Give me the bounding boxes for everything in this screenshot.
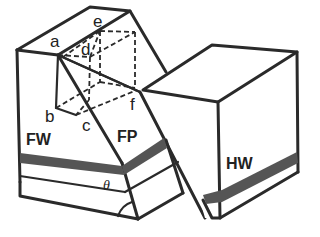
block-label-fp: FP xyxy=(117,128,138,145)
point-label-d: d xyxy=(81,40,90,59)
block-label-fw: FW xyxy=(26,131,52,148)
point-label-c: c xyxy=(82,116,91,135)
block-label-hw: HW xyxy=(226,155,254,172)
angle-arc xyxy=(118,202,132,216)
point-label-f: f xyxy=(130,95,135,114)
point-label-b: b xyxy=(45,107,54,126)
point-label-a: a xyxy=(50,32,60,51)
angle-label-theta: θ xyxy=(103,178,110,193)
point-label-e: e xyxy=(93,12,102,31)
fault-block-diagram: a b c d e f FW FP HW θ xyxy=(0,0,320,237)
